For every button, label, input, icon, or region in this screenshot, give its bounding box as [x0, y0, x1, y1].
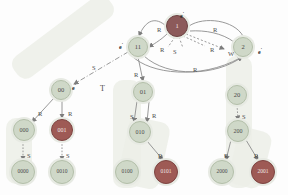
graph-node-n2001[interactable]: 2001: [251, 160, 275, 184]
graph-node-n010[interactable]: 010: [129, 121, 151, 143]
edge-label-el-root-right: R: [213, 26, 217, 33]
node-label: 20: [234, 91, 241, 98]
edge-label-el-root-left: R: [157, 26, 161, 33]
graph-node-n001[interactable]: 001: [51, 119, 73, 141]
node-annotation-ann-n00: e': [72, 83, 76, 91]
edge-label-el-00-left: R: [38, 110, 42, 117]
node-label: 2000: [217, 169, 228, 175]
node-annotation-ann-root: e': [180, 11, 184, 19]
edge-label-el-00-right: R: [68, 110, 72, 117]
edge-label-el-010-0101: R: [158, 152, 162, 159]
node-label: 0010: [57, 169, 68, 175]
node-label: 2: [241, 43, 244, 50]
node-label: 0000: [18, 169, 29, 175]
node-label: 001: [58, 127, 67, 133]
edge-label-el-20-200: S: [242, 113, 246, 120]
edge-label-el-000-0000: S: [27, 152, 31, 159]
edge-label-el-inner-right: R: [210, 46, 214, 53]
edge-label-el-01-left: S: [130, 113, 134, 120]
edge-label-el-w: W: [228, 50, 234, 57]
graph-node-n0100[interactable]: 0100: [115, 160, 139, 184]
node-label: 01: [140, 88, 147, 95]
edge-label-el-01-right: R: [152, 112, 156, 119]
graph-node-n0010[interactable]: 0010: [50, 160, 74, 184]
node-label: 2001: [258, 169, 269, 175]
graph-node-n11[interactable]: 11: [128, 37, 148, 57]
graph-node-n01[interactable]: 01: [133, 82, 153, 102]
node-label: 0101: [161, 169, 172, 175]
edge-label-el-inner-left: R: [160, 46, 164, 53]
graph-node-n00[interactable]: 00: [51, 80, 71, 100]
node-annotation-ann-n11: e': [119, 42, 123, 50]
node-label: 200: [234, 128, 243, 134]
node-label: 11: [135, 43, 141, 50]
edge-label-el-001-0010: S: [66, 152, 70, 159]
diagram-canvas: 1112000120000001010200000000100100010120…: [0, 0, 288, 195]
edge-label-el-200-right: R: [254, 152, 258, 159]
node-label: 00: [58, 86, 65, 93]
edge-label-el-s-dashdot: S: [92, 64, 96, 71]
graph-node-n0101[interactable]: 0101: [154, 160, 178, 184]
node-label: 010: [136, 129, 145, 135]
graph-node-root[interactable]: 1: [166, 15, 188, 37]
annotation-prime: ': [75, 83, 76, 88]
graph-node-n20[interactable]: 20: [227, 85, 247, 105]
annotation-prime: ': [183, 11, 184, 16]
graph-node-n2000[interactable]: 2000: [210, 160, 234, 184]
edge-label-el-inner-s: S: [173, 48, 177, 55]
graph-node-n0000[interactable]: 0000: [11, 160, 35, 184]
graph-node-n000[interactable]: 000: [13, 119, 35, 141]
annotation-prime: ': [122, 42, 123, 47]
edge-label-el-t: T: [100, 84, 105, 93]
edge-label-el-11-01: R: [134, 71, 138, 78]
graph-node-n200[interactable]: 200: [227, 120, 249, 142]
annotation-prime: ': [261, 47, 262, 52]
node-label: 1: [175, 22, 178, 29]
node-label: 000: [20, 127, 29, 133]
node-label: 0100: [122, 169, 133, 175]
graph-node-n2[interactable]: 2: [233, 37, 253, 57]
edge-label-el-bottom-arc: R: [193, 66, 197, 73]
edge-label-el-200-left: R: [224, 152, 228, 159]
node-annotation-ann-n2: e': [258, 47, 262, 55]
